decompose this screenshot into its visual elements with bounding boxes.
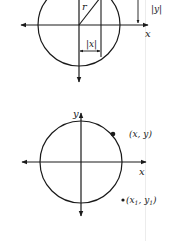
top-diagram: r |x| |y| x [21, 0, 162, 82]
bottom-diagram: y x (x, y) (x1, y1) [22, 108, 157, 216]
bottom-x-axis-label: x [139, 166, 145, 177]
abs-x-label: |x| [86, 39, 97, 50]
abs-y-label: |y| [151, 4, 162, 15]
unit-circle-figure: r |x| |y| x y x (x, y) (x1, y1) [0, 0, 176, 241]
point-outside-label: (x1, y1) [126, 195, 157, 206]
top-x-axis-label: x [145, 28, 151, 39]
radius-label: r [82, 1, 88, 12]
point-outside-circle [121, 198, 124, 201]
point-on-circle [111, 132, 116, 137]
bottom-y-axis-label: y [72, 108, 79, 119]
point-on-circle-label: (x, y) [129, 129, 152, 139]
